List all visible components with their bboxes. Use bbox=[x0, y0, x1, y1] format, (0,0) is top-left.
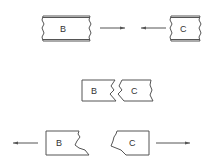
block-b-top: B bbox=[42, 16, 91, 41]
block-c-top: C bbox=[170, 16, 201, 41]
stage-joined: B C bbox=[82, 80, 153, 101]
block-c-middle: C bbox=[118, 80, 153, 101]
block-c-label: C bbox=[180, 24, 187, 34]
block-c-bottom: C bbox=[111, 131, 149, 155]
block-c-label: C bbox=[131, 86, 138, 96]
block-b-bottom: B bbox=[46, 131, 89, 155]
stage-approach: B C bbox=[42, 16, 201, 41]
block-b-middle: B bbox=[82, 80, 116, 101]
block-b-label: B bbox=[60, 24, 66, 34]
stage-separated: B C bbox=[13, 131, 190, 155]
block-b-label: B bbox=[91, 86, 97, 96]
block-b-label: B bbox=[56, 138, 62, 148]
block-c-label: C bbox=[129, 138, 136, 148]
blocks-diagram: B C B C B C bbox=[0, 0, 211, 166]
